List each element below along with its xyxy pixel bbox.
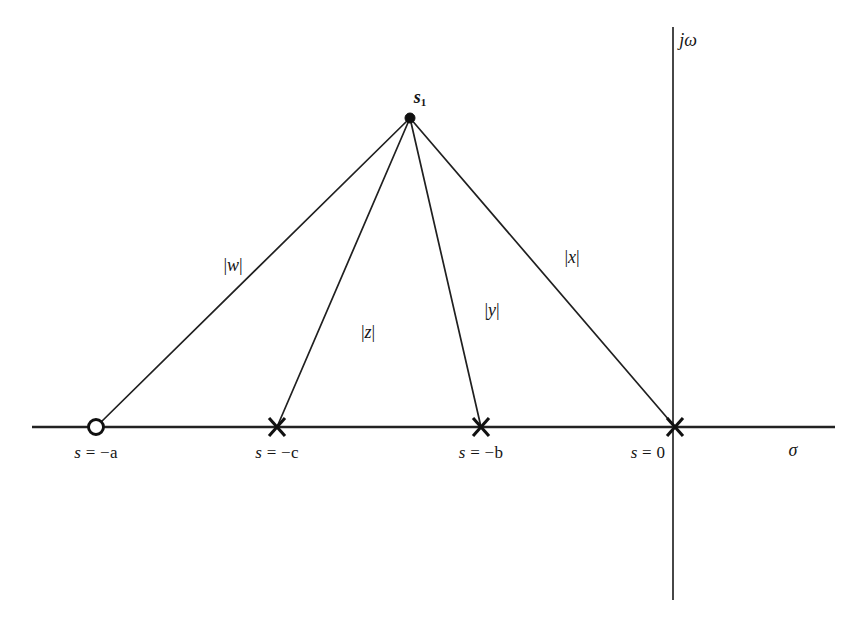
pole-label-b: s = −b [459,444,504,461]
splane-figure: s1 |w| |z| |y| |x| s = −a s = −c s = −b … [0,0,865,631]
test-point-label-symbol: s [414,87,421,107]
pole-label-b-symbol: s [459,443,466,462]
vector-label-z: |z| [361,323,375,341]
vector-line-w [96,118,410,427]
zero-label-a-symbol: s [74,443,81,462]
pole-label-origin-value: = 0 [638,443,666,462]
splane-drawing-canvas [0,0,865,631]
vector-line-z [277,118,410,427]
pole-label-origin-symbol: s [631,443,638,462]
pole-label-c: s = −c [255,444,299,461]
pole-label-c-value: = −c [262,443,299,462]
vector-label-y-close: | [496,300,500,320]
test-point-label-subscript: 1 [421,96,427,108]
vector-label-x-var: x [568,247,576,267]
vector-label-y: |y| [484,301,499,319]
j-omega-axis-label: jω [679,31,697,49]
pole-label-origin: s = 0 [631,444,666,461]
vector-label-w: |w| [223,256,242,274]
pole-label-c-symbol: s [255,443,262,462]
vector-line-x [410,118,675,427]
vector-line-y [410,118,481,427]
sigma-axis-label: σ [789,441,798,459]
pole-label-b-value: = −b [466,443,504,462]
vector-label-w-close: | [239,255,243,275]
test-point-label: s1 [414,88,427,106]
vector-label-w-var: w [227,255,239,275]
vector-label-x-close: | [576,247,580,267]
zero-marker-a [89,420,104,435]
vector-label-x: |x| [564,248,579,266]
test-point-marker-s1 [405,113,415,123]
vector-label-z-var: z [364,322,371,342]
vector-label-z-close: | [372,322,376,342]
zero-label-a-value: = −a [81,443,118,462]
zero-label-a: s = −a [74,444,118,461]
vector-label-y-var: y [488,300,496,320]
